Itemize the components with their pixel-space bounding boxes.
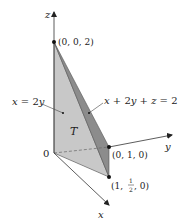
- plane-right-op1: + 2: [110, 95, 131, 106]
- y-axis: [109, 135, 172, 147]
- y-axis-label: y: [164, 141, 171, 152]
- point-1-half-0: [107, 175, 111, 179]
- leader-dot-x-2y-z-2: [88, 112, 90, 114]
- plane-right-op2: +: [136, 95, 151, 106]
- origin-label: 0: [43, 148, 49, 159]
- z-axis-label: z: [44, 9, 51, 20]
- plane-left-var2: y: [38, 96, 45, 107]
- leader-x-2y-z-2: [89, 103, 103, 113]
- label-1-half-0-frac-num: 1: [129, 177, 133, 184]
- point-0-1-0: [107, 145, 111, 149]
- label-0-1-0: (0, 1, 0): [112, 150, 148, 160]
- plane-right-eq: = 2: [156, 95, 177, 106]
- label-0-0-2: (0, 0, 2): [58, 37, 94, 47]
- tetrahedron-faces: [54, 42, 109, 177]
- point-0-0-2: [52, 40, 56, 44]
- plane-left-eq: = 2: [18, 96, 39, 107]
- leader-dot-x-equals-2y: [62, 112, 64, 114]
- label-1-half-0-suffix: , 0): [134, 181, 149, 191]
- plane-label-x-2y-z-2: x + 2y + z = 2: [104, 95, 178, 106]
- tetrahedron-diagram: z y x 0 (0, 0, 2) (0, 1, 0) (1, 1 2 , 0)…: [0, 0, 184, 224]
- label-1-half-0: (1, 1 2 , 0): [111, 177, 149, 193]
- x-axis-label: x: [98, 209, 104, 220]
- label-1-half-0-frac-den: 2: [129, 186, 133, 193]
- plane-label-x-equals-2y: x = 2y: [12, 96, 45, 107]
- label-1-half-0-prefix: (1,: [111, 181, 123, 191]
